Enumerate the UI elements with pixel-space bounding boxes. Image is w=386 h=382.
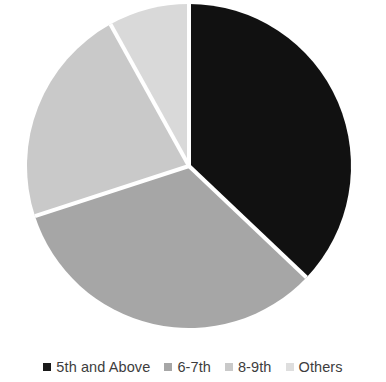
legend-item[interactable]: 5th and Above [43,359,150,375]
legend-swatch-icon [286,363,294,371]
legend-item-label: 5th and Above [56,359,150,375]
legend-item[interactable]: 8-9th [225,359,272,375]
legend-item-label: 6-7th [177,359,211,375]
legend-item[interactable]: 6-7th [164,359,211,375]
legend-item-label: Others [299,359,343,375]
legend-item-label: 8-9th [238,359,272,375]
legend-swatch-icon [225,363,233,371]
legend-swatch-icon [43,363,51,371]
pie-svg [0,0,386,344]
legend-item[interactable]: Others [286,359,343,375]
pie-plot-area [0,0,386,344]
chart-legend: 5th and Above6-7th8-9thOthers [0,352,386,382]
pie-chart-figure: 5th and Above6-7th8-9thOthers [0,0,386,382]
legend-swatch-icon [164,363,172,371]
